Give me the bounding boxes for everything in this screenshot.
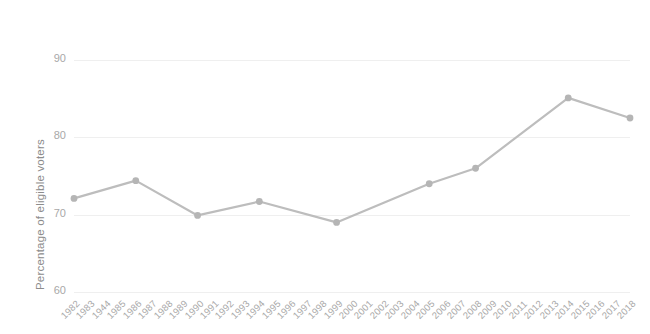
- y-axis-tick-label: 70: [26, 207, 66, 219]
- data-point-marker[interactable]: [333, 219, 340, 226]
- y-axis-tick-label: 90: [26, 52, 66, 64]
- plot-area: 60708090: [74, 60, 630, 292]
- data-point-marker[interactable]: [426, 180, 433, 187]
- series-line: [74, 98, 630, 223]
- data-point-marker[interactable]: [565, 94, 572, 101]
- data-point-marker[interactable]: [132, 177, 139, 184]
- data-series-layer: [74, 60, 630, 292]
- data-point-marker[interactable]: [194, 212, 201, 219]
- line-chart: Percentage of eligible voters 60708090 1…: [0, 0, 650, 334]
- x-axis-ticks: 1982198319441985198619871988198919901991…: [74, 292, 630, 334]
- data-point-marker[interactable]: [627, 115, 634, 122]
- data-point-marker[interactable]: [256, 198, 263, 205]
- y-axis-title: Percentage of eligible voters: [34, 40, 54, 290]
- y-axis-tick-label: 60: [26, 284, 66, 296]
- data-point-marker[interactable]: [472, 165, 479, 172]
- data-point-marker[interactable]: [71, 195, 78, 202]
- y-axis-tick-label: 80: [26, 129, 66, 141]
